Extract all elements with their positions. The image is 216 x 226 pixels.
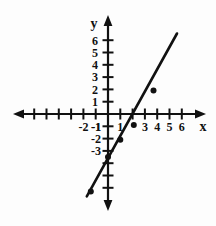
x-axis-label: x: [200, 119, 207, 134]
coordinate-graph: 6 5 4 3 2 1 -1 -2 -3 -2 -1 1 3 4 5 6 y x: [0, 0, 216, 226]
y-tick-label-neg3: -3: [91, 144, 101, 158]
data-point-1: [88, 189, 94, 195]
data-point-3: [117, 137, 123, 143]
x-tick-label-3: 3: [142, 120, 148, 134]
x-tick-label-5: 5: [167, 120, 173, 134]
graph-canvas: 6 5 4 3 2 1 -1 -2 -3 -2 -1 1 3 4 5 6 y x: [0, 0, 216, 226]
x-tick-label-4: 4: [154, 120, 160, 134]
data-point-4: [131, 122, 137, 128]
x-axis-left-arrow-icon: [13, 110, 24, 119]
x-tick-label-1: 1: [117, 120, 123, 134]
x-tick-label-neg2: -2: [78, 120, 88, 134]
data-point-5: [151, 88, 157, 94]
x-tick-label-6: 6: [179, 120, 185, 134]
y-axis-bottom-arrow-icon: [104, 200, 113, 211]
y-axis-top-arrow-icon: [104, 15, 113, 26]
y-tick-label-1: 1: [92, 95, 98, 109]
y-axis-label: y: [91, 16, 98, 31]
data-point-2: [105, 154, 111, 160]
x-tick-label-neg1: -1: [91, 120, 101, 134]
x-axis-right-arrow-icon: [195, 110, 206, 119]
